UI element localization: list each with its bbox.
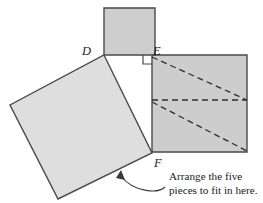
geometry-figure: D E F Arrange the five pieces to fit in … [0, 0, 263, 203]
caption-line-2: pieces to fit in here. [169, 184, 258, 196]
small-square [104, 8, 155, 55]
vertex-label-f: F [153, 156, 162, 170]
tilted-square [10, 55, 152, 199]
large-square [152, 55, 247, 152]
caption-line-1: Arrange the five [169, 170, 242, 182]
curved-arrow-head [116, 170, 125, 180]
right-angle-mark [143, 55, 152, 64]
curved-arrow [121, 176, 165, 191]
vertex-label-e: E [152, 44, 161, 58]
figure-container: D E F Arrange the five pieces to fit in … [0, 0, 263, 203]
vertex-label-d: D [81, 44, 91, 58]
